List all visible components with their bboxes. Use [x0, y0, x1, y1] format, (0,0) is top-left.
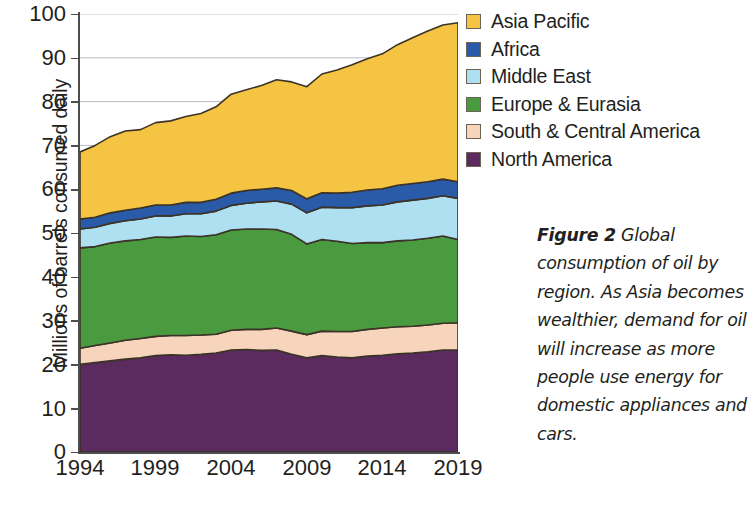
legend-item-middle-east[interactable]: Middle East — [466, 63, 736, 91]
y-tick-label-30: 30 — [4, 310, 66, 332]
legend-label-europe-eurasia: Europe & Eurasia — [491, 93, 641, 116]
legend-label-asia-pacific: Asia Pacific — [491, 10, 589, 33]
chart-legend: Asia Pacific Africa Middle East Europe &… — [466, 8, 736, 173]
y-tick-label-60: 60 — [4, 178, 66, 200]
legend-item-south-central-america[interactable]: South & Central America — [466, 118, 736, 146]
figure-caption-text: Global consumption of oil by region. As … — [537, 225, 747, 444]
y-axis-tick-labels: 100 90 80 70 60 50 40 30 20 10 0 — [0, 0, 66, 518]
stacked-area-plot — [80, 14, 458, 452]
y-tick-label-70: 70 — [4, 135, 66, 157]
legend-label-south-central-america: South & Central America — [491, 120, 700, 143]
legend-item-north-america[interactable]: North America — [466, 146, 736, 174]
legend-item-europe-eurasia[interactable]: Europe & Eurasia — [466, 91, 736, 119]
y-tick-label-100: 100 — [4, 3, 66, 25]
y-tick-label-90: 90 — [4, 47, 66, 69]
legend-label-north-america: North America — [491, 148, 612, 171]
y-tick-label-50: 50 — [4, 222, 66, 244]
figure-caption: Figure 2 Global consumption of oil by re… — [537, 221, 749, 448]
legend-swatch-africa — [466, 42, 481, 57]
legend-label-africa: Africa — [491, 38, 540, 61]
legend-swatch-north-america — [466, 152, 481, 167]
x-axis-line — [78, 452, 460, 454]
y-tick-label-10: 10 — [4, 398, 66, 420]
legend-label-middle-east: Middle East — [491, 65, 591, 88]
legend-swatch-middle-east — [466, 69, 481, 84]
legend-item-africa[interactable]: Africa — [466, 36, 736, 64]
y-tick-label-40: 40 — [4, 266, 66, 288]
legend-swatch-europe-eurasia — [466, 97, 481, 112]
area-band-north-america — [80, 350, 458, 452]
legend-swatch-south-central-america — [466, 124, 481, 139]
figure-caption-label: Figure 2 — [537, 225, 616, 245]
y-tick-label-80: 80 — [4, 91, 66, 113]
legend-item-asia-pacific[interactable]: Asia Pacific — [466, 8, 736, 36]
y-tick-label-20: 20 — [4, 354, 66, 376]
legend-swatch-asia-pacific — [466, 14, 481, 29]
chart-canvas — [80, 14, 458, 452]
x-tick-label-2019: 2019 — [413, 457, 503, 479]
y-axis-line — [78, 12, 80, 454]
